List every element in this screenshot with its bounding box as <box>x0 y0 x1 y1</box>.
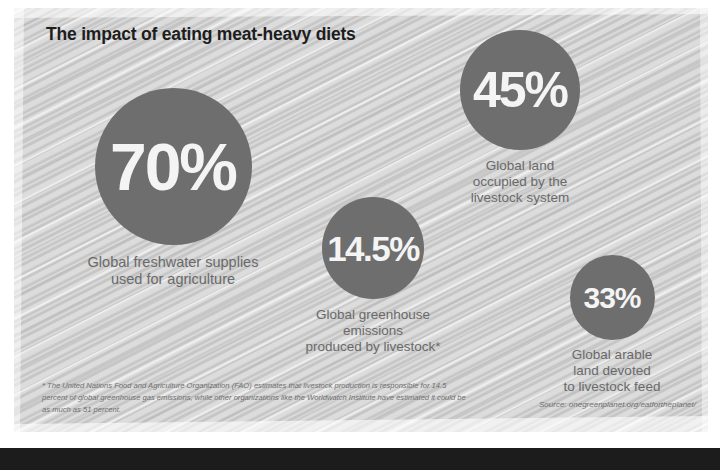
caption-line: used for agriculture <box>57 271 289 288</box>
source-credit: Source: onegreenplanet.org/eatfortheplan… <box>539 400 696 409</box>
stat-bubble-emissions: 14.5% <box>322 197 424 299</box>
stat-freshwater: 70% Global freshwater supplies used for … <box>57 88 289 288</box>
page-title: The impact of eating meat-heavy diets <box>46 24 356 45</box>
bottom-bar <box>0 448 720 470</box>
infographic-canvas: The impact of eating meat-heavy diets 70… <box>0 0 720 470</box>
caption-line: Global land <box>450 158 590 174</box>
stat-bubble-freshwater: 70% <box>95 88 252 245</box>
stat-value-freshwater: 70% <box>110 134 236 200</box>
stat-bubble-arable: 33% <box>570 255 655 340</box>
stat-caption-arable: Global arable land devoted to livestock … <box>537 347 687 395</box>
stat-caption-freshwater: Global freshwater supplies used for agri… <box>57 254 289 288</box>
stat-value-arable: 33% <box>583 283 640 313</box>
footnote-text: * The United Nations Food and Agricultur… <box>42 380 472 415</box>
caption-line: Global freshwater supplies <box>57 254 289 271</box>
caption-line: Global arable <box>537 347 687 363</box>
stat-emissions: 14.5% Global greenhouse emissions produc… <box>273 197 473 355</box>
caption-line: to livestock feed <box>537 379 687 395</box>
caption-line: occupied by the <box>450 174 590 190</box>
stat-value-land: 45% <box>473 65 567 115</box>
stat-land: 45% Global land occupied by the livestoc… <box>450 30 590 206</box>
stat-bubble-land: 45% <box>460 30 580 150</box>
caption-line: land devoted <box>537 363 687 379</box>
stat-value-emissions: 14.5% <box>327 231 419 266</box>
caption-line: emissions <box>273 323 473 339</box>
caption-line: produced by livestock* <box>273 339 473 355</box>
stat-caption-emissions: Global greenhouse emissions produced by … <box>273 307 473 355</box>
caption-line: Global greenhouse <box>273 307 473 323</box>
stat-arable: 33% Global arable land devoted to livest… <box>537 255 687 395</box>
